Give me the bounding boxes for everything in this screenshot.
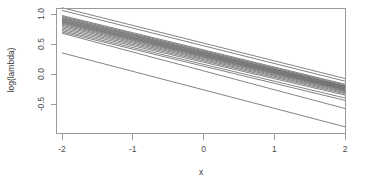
y-tick-label: 0.0 bbox=[36, 68, 46, 80]
data-line bbox=[62, 22, 345, 89]
y-tick-label: 0.5 bbox=[36, 38, 46, 50]
data-line bbox=[62, 22, 345, 89]
x-tick-label: 0 bbox=[201, 144, 206, 154]
data-line bbox=[62, 21, 345, 89]
x-axis-ticks: -2-1012 bbox=[58, 134, 347, 155]
data-line bbox=[62, 18, 345, 86]
data-line bbox=[62, 17, 345, 86]
data-line bbox=[62, 24, 345, 91]
y-axis-ticks: 1.00.50.0-0.5 bbox=[36, 8, 57, 112]
data-line bbox=[62, 23, 345, 90]
data-line bbox=[62, 28, 345, 94]
data-line bbox=[62, 8, 345, 79]
x-tick-label: -2 bbox=[58, 144, 66, 154]
x-tick-label: -1 bbox=[129, 144, 137, 154]
figure-container: -2-1012 1.00.50.0-0.5 x log(lambda) bbox=[0, 0, 369, 184]
y-axis-label: log(lambda) bbox=[6, 47, 16, 92]
data-line bbox=[62, 17, 345, 86]
data-line bbox=[62, 29, 345, 95]
x-axis-label: x bbox=[199, 167, 204, 177]
data-line bbox=[62, 20, 345, 88]
y-tick-label: -0.5 bbox=[36, 96, 46, 111]
x-tick-label: 2 bbox=[343, 144, 348, 154]
data-line bbox=[62, 19, 345, 87]
x-tick-label: 1 bbox=[272, 144, 277, 154]
data-line bbox=[62, 16, 345, 85]
line-chart: -2-1012 1.00.50.0-0.5 x log(lambda) bbox=[0, 0, 369, 184]
data-line bbox=[62, 26, 345, 92]
data-series-group bbox=[62, 8, 345, 127]
data-line bbox=[62, 25, 345, 91]
y-tick-label: 1.0 bbox=[36, 8, 46, 20]
